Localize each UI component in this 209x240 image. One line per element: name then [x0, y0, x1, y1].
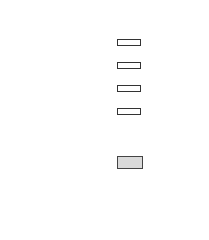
- legend-guanine: [117, 108, 144, 115]
- cytosine-swatch: [117, 85, 141, 92]
- backbone-swatch: [117, 156, 143, 169]
- legend-adenine: [117, 39, 144, 46]
- legend-cytosine: [117, 85, 144, 92]
- legend-thymine: [117, 62, 144, 69]
- dna-helix-diagram: [0, 0, 110, 215]
- legend-backbone: [117, 156, 146, 169]
- thymine-swatch: [117, 62, 141, 69]
- adenine-swatch: [117, 39, 141, 46]
- guanine-swatch: [117, 108, 141, 115]
